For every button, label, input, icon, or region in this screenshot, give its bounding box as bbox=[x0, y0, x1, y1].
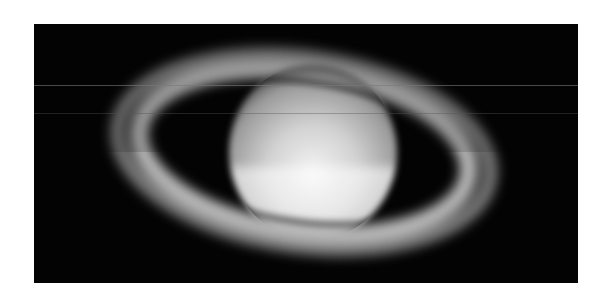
scan-line bbox=[34, 113, 578, 114]
saturn-photo: Grayscale telescope photograph of the pl… bbox=[34, 24, 578, 283]
scan-line bbox=[34, 85, 578, 86]
saturn-illustration bbox=[34, 24, 578, 283]
